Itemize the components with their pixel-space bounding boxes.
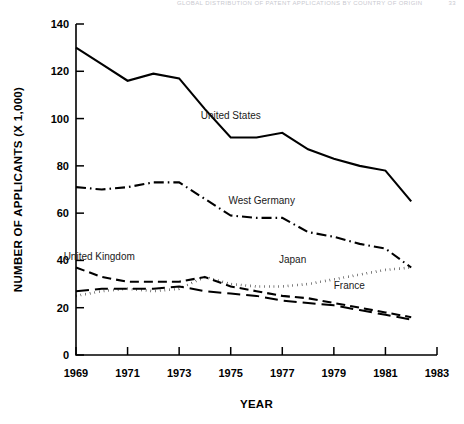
data-series-group xyxy=(76,48,411,320)
y-axis-title-group: NUMBER OF APPLICANTS (X 1,000) xyxy=(12,87,24,292)
x-tick-label: 1977 xyxy=(270,367,294,379)
y-tick-label: 0 xyxy=(63,349,69,361)
x-axis-title-group: YEAR xyxy=(240,398,274,410)
series-line-united-states xyxy=(76,48,411,202)
series-label-united-kingdom: United Kingdom xyxy=(64,251,135,262)
x-tick-label: 1971 xyxy=(115,367,139,379)
y-axis-title: NUMBER OF APPLICANTS (X 1,000) xyxy=(12,87,24,292)
series-label-japan: Japan xyxy=(279,254,306,265)
x-tick-label: 1973 xyxy=(167,367,191,379)
x-tick-label: 1983 xyxy=(425,367,449,379)
series-label-france: France xyxy=(334,280,366,291)
series-label-united-states: United States xyxy=(201,110,261,121)
x-axis-ticks-group: 19691971197319751977197919811983 xyxy=(64,347,449,379)
applicants-line-chart: NUMBER OF APPLICANTS (X 1,000) 020406080… xyxy=(0,0,464,424)
axes-group xyxy=(76,24,437,355)
y-tick-label: 140 xyxy=(51,18,69,30)
x-axis-title: YEAR xyxy=(240,398,274,410)
chart-container: NUMBER OF APPLICANTS (X 1,000) 020406080… xyxy=(0,0,464,424)
x-tick-label: 1975 xyxy=(218,367,242,379)
y-tick-label: 20 xyxy=(57,302,69,314)
x-tick-label: 1969 xyxy=(64,367,88,379)
y-tick-label: 100 xyxy=(51,113,69,125)
series-line-france xyxy=(76,286,411,319)
x-tick-label: 1979 xyxy=(322,367,346,379)
y-tick-label: 60 xyxy=(57,207,69,219)
x-tick-label: 1981 xyxy=(373,367,397,379)
y-tick-label: 80 xyxy=(57,160,69,172)
y-axis-ticks-group: 020406080100120140 xyxy=(51,18,84,361)
series-label-west-germany: West Germany xyxy=(228,195,295,206)
y-tick-label: 120 xyxy=(51,65,69,77)
series-labels-group: United StatesWest GermanyUnited KingdomJ… xyxy=(64,110,366,291)
